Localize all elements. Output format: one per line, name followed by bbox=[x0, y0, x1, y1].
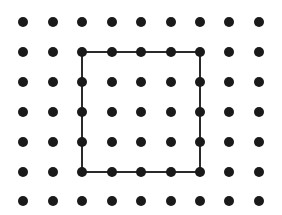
grid-dot bbox=[48, 167, 58, 177]
grid-dot bbox=[136, 47, 146, 57]
grid-dot bbox=[166, 167, 176, 177]
grid-dot bbox=[254, 107, 264, 117]
grid-dot bbox=[18, 167, 28, 177]
grid-dot bbox=[195, 77, 205, 87]
grid-dot bbox=[166, 107, 176, 117]
grid-dot bbox=[224, 47, 234, 57]
grid-dot bbox=[107, 167, 117, 177]
grid-dot bbox=[107, 107, 117, 117]
grid-dot bbox=[48, 17, 58, 27]
grid-dot bbox=[195, 137, 205, 147]
grid-dot bbox=[136, 17, 146, 27]
grid-dot bbox=[166, 77, 176, 87]
grid-dot bbox=[107, 77, 117, 87]
grid-dot bbox=[18, 47, 28, 57]
grid-dot bbox=[107, 47, 117, 57]
grid-dot bbox=[195, 107, 205, 117]
grid-dot bbox=[136, 196, 146, 206]
dot-grid-diagram bbox=[0, 0, 282, 215]
grid-dot bbox=[48, 47, 58, 57]
grid-dot bbox=[195, 167, 205, 177]
grid-dot bbox=[18, 77, 28, 87]
grid-dot bbox=[195, 47, 205, 57]
grid-dot bbox=[48, 107, 58, 117]
grid-dot bbox=[107, 196, 117, 206]
grid-dot bbox=[18, 196, 28, 206]
grid-dot bbox=[18, 137, 28, 147]
grid-dot bbox=[77, 77, 87, 87]
grid-dot bbox=[107, 17, 117, 27]
grid-dot bbox=[166, 137, 176, 147]
grid-dot bbox=[224, 196, 234, 206]
grid-dot bbox=[77, 17, 87, 27]
grid-dot bbox=[224, 167, 234, 177]
grid-dot bbox=[254, 77, 264, 87]
dot-grid bbox=[18, 17, 264, 206]
grid-dot bbox=[77, 47, 87, 57]
grid-dot bbox=[254, 17, 264, 27]
grid-dot bbox=[107, 137, 117, 147]
grid-dot bbox=[136, 107, 146, 117]
grid-dot bbox=[166, 196, 176, 206]
grid-dot bbox=[254, 167, 264, 177]
grid-dot bbox=[48, 196, 58, 206]
grid-dot bbox=[224, 77, 234, 87]
grid-dot bbox=[48, 137, 58, 147]
grid-dot bbox=[254, 196, 264, 206]
grid-dot bbox=[224, 137, 234, 147]
grid-dot bbox=[77, 167, 87, 177]
grid-dot bbox=[77, 107, 87, 117]
grid-dot bbox=[195, 196, 205, 206]
grid-dot bbox=[18, 107, 28, 117]
grid-dot bbox=[195, 17, 205, 27]
grid-dot bbox=[136, 137, 146, 147]
grid-dot bbox=[254, 47, 264, 57]
grid-dot bbox=[136, 77, 146, 87]
grid-dot bbox=[48, 77, 58, 87]
grid-dot bbox=[224, 17, 234, 27]
grid-dot bbox=[77, 137, 87, 147]
grid-dot bbox=[254, 137, 264, 147]
grid-dot bbox=[166, 17, 176, 27]
grid-dot bbox=[224, 107, 234, 117]
grid-dot bbox=[136, 167, 146, 177]
grid-dot bbox=[18, 17, 28, 27]
dot-grid-canvas bbox=[0, 0, 282, 215]
grid-dot bbox=[166, 47, 176, 57]
grid-dot bbox=[77, 196, 87, 206]
